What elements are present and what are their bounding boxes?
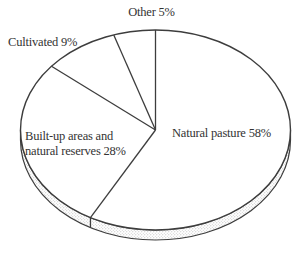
label-other: Other 5%: [128, 5, 175, 19]
label-builtup-line2: natural reserves 28%: [25, 144, 126, 158]
pie-chart-figure: Other 5% Cultivated 9% Built-up areas an…: [0, 0, 304, 259]
label-builtup-line1: Built-up areas and: [25, 129, 114, 143]
label-natural-pasture: Natural pasture 58%: [172, 126, 271, 140]
pie-chart: Other 5% Cultivated 9% Built-up areas an…: [0, 0, 304, 259]
label-cultivated: Cultivated 9%: [8, 35, 77, 49]
